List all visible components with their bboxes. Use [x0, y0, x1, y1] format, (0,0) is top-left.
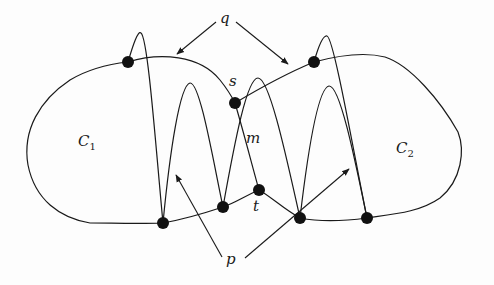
node-t: [253, 184, 265, 196]
node-bottom-1: [157, 217, 169, 229]
label-c1: C1: [78, 134, 96, 152]
label-c1-sub: 1: [89, 141, 95, 152]
node-bottom-3: [294, 212, 306, 224]
label-c2: C2: [396, 141, 414, 159]
node-bottom-4: [361, 212, 373, 224]
arrow-p-left: [176, 175, 222, 257]
loop-q2: [314, 36, 367, 218]
arrow-q-left: [177, 22, 216, 54]
label-t: t: [253, 199, 259, 214]
node-q2: [308, 56, 320, 68]
arch-1: [163, 83, 223, 223]
label-p: p: [226, 252, 236, 267]
label-c1-main: C: [78, 132, 89, 150]
label-q: q: [220, 11, 230, 26]
node-q1: [122, 56, 134, 68]
arrow-q-right: [236, 22, 288, 64]
node-s: [229, 97, 241, 109]
diagram-canvas: q s m t p C1 C2: [0, 0, 494, 285]
label-m: m: [246, 131, 260, 146]
label-c2-sub: 2: [407, 148, 413, 159]
label-c2-main: C: [396, 139, 407, 157]
node-bottom-2: [217, 201, 229, 213]
label-s: s: [229, 74, 237, 89]
arch-3: [300, 86, 367, 218]
